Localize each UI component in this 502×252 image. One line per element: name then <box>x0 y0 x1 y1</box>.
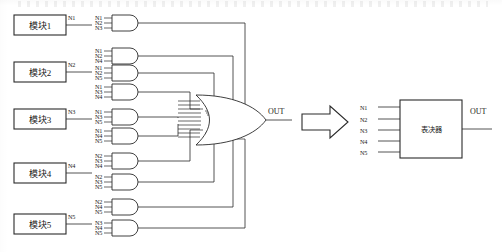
module-box-4[interactable]: 模块4 N4 <box>14 162 92 183</box>
transform-arrow-icon <box>302 106 348 138</box>
voter-output-label: OUT <box>470 107 487 116</box>
or-gate[interactable]: OUT <box>196 95 292 145</box>
voter-block-label: 表决器 <box>421 125 442 134</box>
and-gate-6[interactable]: N1 N4 N5 <box>95 124 178 144</box>
module-out-signal: N5 <box>68 213 75 220</box>
and-input-label: N5 <box>95 183 102 190</box>
module-box-2[interactable]: 模块2 N2 <box>14 61 92 82</box>
and-gate-5[interactable]: N1 N3 N5 <box>95 108 178 125</box>
and-input-label: N4 <box>95 57 102 64</box>
and-input-label: N5 <box>95 208 102 215</box>
module-label: 模块1 <box>29 20 52 31</box>
voter-input-label: N3 <box>360 127 367 134</box>
module-box-5[interactable]: 模块5 N5 <box>14 213 92 234</box>
voter-input-label: N2 <box>360 116 367 123</box>
diagram-svg: 模块1 N1 模块2 N2 模块3 N3 模块4 N4 模块5 N5 <box>0 0 502 252</box>
module-label: 模块3 <box>29 114 52 125</box>
figure-canvas: 模块1 N1 模块2 N2 模块3 N3 模块4 N4 模块5 N5 <box>0 0 502 252</box>
voter-input-label: N1 <box>360 104 367 111</box>
and-input-label: N5 <box>95 229 102 236</box>
module-out-signal: N2 <box>68 61 75 68</box>
module-out-signal: N1 <box>68 14 75 21</box>
module-out-signal: N3 <box>68 108 75 115</box>
module-label: 模块2 <box>29 67 52 78</box>
voter-input-label: N4 <box>360 138 367 145</box>
and-gate-4[interactable]: N1 N3 N4 <box>95 83 190 109</box>
module-label: 模块4 <box>29 168 52 179</box>
and-input-label: N4 <box>95 162 102 169</box>
and-input-label: N5 <box>95 137 102 144</box>
and-input-label: N5 <box>95 74 102 81</box>
module-label: 模块5 <box>29 219 52 230</box>
and-input-label: N3 <box>95 24 102 31</box>
and-input-label: N5 <box>95 118 102 125</box>
module-out-signal: N4 <box>68 162 75 169</box>
module-box-3[interactable]: 模块3 N3 <box>14 108 92 129</box>
module-box-1[interactable]: 模块1 N1 <box>14 14 92 35</box>
or-gate-output-label: OUT <box>268 107 285 116</box>
voter-input-label: N5 <box>360 149 367 156</box>
and-input-label: N4 <box>95 93 102 100</box>
voter-block[interactable]: 表决器 N1 N2 N3 N4 N5 OUT <box>360 100 492 158</box>
